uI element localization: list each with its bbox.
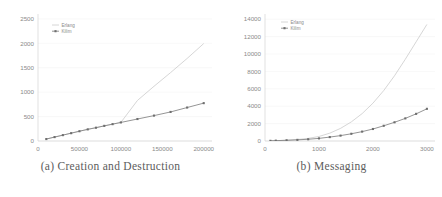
series-marker-kilim [87, 128, 89, 130]
y-axis-tick-label: 14000 [244, 15, 262, 22]
series-marker-kilim [361, 131, 363, 133]
series-marker-kilim [62, 134, 64, 136]
subfigure-caption-a: (a) Creation and Destruction [0, 160, 221, 172]
series-marker-kilim [372, 128, 374, 130]
series-marker-kilim [340, 135, 342, 137]
series-marker-kilim [393, 121, 395, 123]
series-marker-kilim [70, 132, 72, 134]
x-axis-tick-label: 1000 [312, 145, 326, 152]
x-axis-tick-label: 0 [36, 145, 40, 152]
y-axis-tick-label: 10000 [244, 50, 262, 57]
subfigure-messaging: 0200040006000800010000120001400001000200… [221, 0, 442, 197]
series-layer [45, 44, 205, 141]
legend-label-kilim: Kilim [62, 29, 72, 34]
series-marker-kilim [45, 138, 47, 140]
series-line-erlang [46, 44, 203, 140]
series-marker-kilim [170, 111, 172, 113]
y-axis-tick-label: 1000 [20, 88, 34, 95]
subfigure-caption-b: (b) Messaging [221, 160, 442, 172]
y-axis-tick-label: 6000 [247, 85, 261, 92]
series-marker-kilim [136, 118, 138, 120]
y-axis-tick-label: 2500 [20, 15, 34, 22]
series-marker-kilim [203, 102, 205, 104]
y-axis-tick-label: 2000 [247, 120, 261, 127]
series-marker-kilim [153, 115, 155, 117]
series-line-kilim [270, 109, 427, 141]
x-axis-tick-label: 50000 [71, 145, 89, 152]
legend-label-kilim: Kilim [291, 26, 301, 31]
series-marker-kilim [112, 123, 114, 125]
legend-label-erlang: Erlang [291, 20, 305, 25]
y-axis-tick-label: 500 [24, 113, 35, 120]
line-chart-messaging: 0200040006000800010000120001400001000200… [221, 0, 442, 162]
series-layer [269, 24, 428, 141]
x-axis-tick-label: 3000 [420, 145, 434, 152]
x-axis-tick-label: 150000 [152, 145, 173, 152]
series-marker-kilim [307, 138, 309, 140]
series-marker-kilim [103, 125, 105, 127]
series-marker-kilim [383, 125, 385, 127]
series-marker-kilim [426, 108, 428, 110]
series-marker-kilim [269, 140, 271, 142]
y-axis-tick-label: 0 [258, 137, 262, 144]
figure-row: 0500100015002000250005000010000015000020… [0, 0, 442, 197]
series-marker-kilim [350, 133, 352, 135]
series-marker-kilim [318, 137, 320, 139]
line-chart-creation-destruction: 0500100015002000250005000010000015000020… [0, 0, 221, 162]
plot-area-creation-destruction: 0500100015002000250005000010000015000020… [0, 0, 221, 162]
y-axis-tick-label: 1500 [20, 64, 34, 71]
x-axis-tick-label: 2000 [366, 145, 380, 152]
plot-area-messaging: 0200040006000800010000120001400001000200… [221, 0, 442, 162]
series-marker-kilim [95, 127, 97, 129]
series-marker-kilim [329, 136, 331, 138]
series-marker-kilim [296, 139, 298, 141]
series-marker-kilim [120, 121, 122, 123]
subfigure-creation-destruction: 0500100015002000250005000010000015000020… [0, 0, 221, 197]
series-marker-kilim [275, 140, 277, 142]
x-axis-tick-label: 200000 [193, 145, 214, 152]
legend-marker-kilim [54, 30, 56, 32]
series-marker-kilim [415, 113, 417, 115]
y-axis-tick-label: 12000 [244, 33, 262, 40]
y-axis-tick-label: 2000 [20, 40, 34, 47]
series-line-kilim [46, 103, 203, 139]
legend-marker-kilim [283, 27, 285, 29]
x-axis-tick-label: 100000 [111, 145, 132, 152]
x-axis-tick-label: 0 [263, 145, 267, 152]
series-marker-kilim [78, 130, 80, 132]
chart-legend: ErlangKilim [52, 23, 75, 34]
series-marker-kilim [54, 136, 56, 138]
y-axis-tick-label: 8000 [247, 68, 261, 75]
series-marker-kilim [404, 117, 406, 119]
legend-label-erlang: Erlang [62, 23, 76, 28]
y-axis-tick-label: 4000 [247, 102, 261, 109]
chart-legend: ErlangKilim [281, 20, 304, 31]
y-axis-tick-label: 0 [31, 137, 35, 144]
series-marker-kilim [186, 106, 188, 108]
